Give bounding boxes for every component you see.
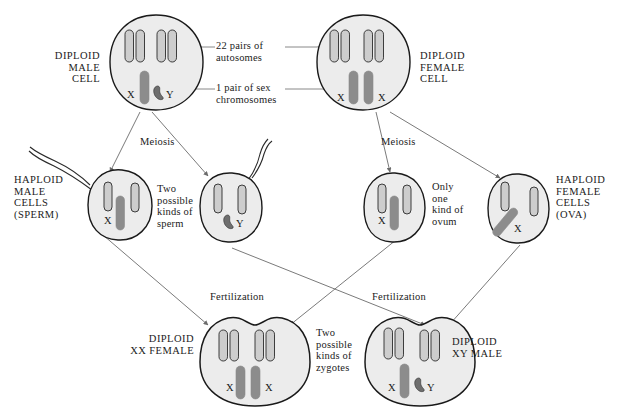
cell-zygote-xy-male[interactable] — [365, 317, 475, 406]
label-diploid-female-cell: DIPLOID FEMALE CELL — [420, 50, 510, 85]
sex-chromosome-x — [390, 196, 399, 230]
label-haploid-female-cells: HAPLOID FEMALE CELLS (OVA) — [556, 174, 618, 220]
mark-ovum-right-x: X — [514, 223, 522, 234]
label-meiosis-female: Meiosis — [381, 136, 416, 148]
label-meiosis-male: Meiosis — [140, 136, 175, 148]
sperm-tail — [252, 141, 272, 178]
mark-male-parent-x: X — [127, 89, 135, 100]
cell-membrane — [317, 15, 410, 110]
mark-zygote-female-x1: X — [226, 382, 234, 393]
cell-haploid-ovum-left[interactable] — [364, 173, 425, 242]
mark-zygote-male-x: X — [388, 382, 396, 393]
sex-chromosome-x — [116, 196, 125, 230]
note-two-kinds-sperm: Two possible kinds of sperm — [157, 183, 207, 229]
label-diploid-male-cell: DIPLOID MALE CELL — [20, 50, 100, 85]
label-zygote-xx-female: DIPLOID XX FEMALE — [110, 333, 194, 356]
label-fertilization-right: Fertilization — [372, 291, 426, 303]
sex-chromosome-x — [140, 71, 149, 104]
label-fertilization-left: Fertilization — [210, 291, 264, 303]
note-one-kind-ovum: Only one kind of ovum — [432, 181, 482, 227]
cell-membrane — [200, 173, 262, 242]
cell-diploid-male-cell[interactable] — [110, 15, 203, 110]
cell-diploid-female-cell[interactable] — [317, 15, 410, 110]
label-haploid-male-cells: HAPLOID MALE CELLS (SPERM) — [14, 174, 86, 220]
mark-zygote-female-x2: X — [265, 382, 273, 393]
callout-sex-chromosomes: 1 pair of sex chromosomes — [216, 82, 296, 105]
mark-male-parent-y: Y — [166, 89, 174, 100]
mark-female-parent-x2: X — [378, 92, 386, 103]
diagram-canvas: X Y X X X Y X X X X X Y DIPLOID MALE CEL… — [0, 0, 619, 414]
mark-female-parent-x1: X — [337, 92, 345, 103]
cell-membrane — [365, 317, 475, 406]
label-zygote-xy-male: DIPLOID XY MALE — [452, 336, 536, 359]
sperm-tail-2 — [248, 139, 268, 180]
note-two-kinds-zygotes: Two possible kinds of zygotes — [316, 327, 370, 373]
mark-sperm-y: Y — [236, 218, 244, 229]
fertilization-arrows — [103, 235, 520, 325]
sex-chromosome-x — [400, 364, 409, 398]
cell-zygote-xx-female[interactable] — [200, 317, 310, 406]
mark-sperm-x: X — [104, 215, 112, 226]
callout-autosomes: 22 pairs of autosomes — [216, 40, 288, 63]
mark-ovum-left-x: X — [378, 215, 386, 226]
mark-zygote-male-y: Y — [427, 382, 435, 393]
